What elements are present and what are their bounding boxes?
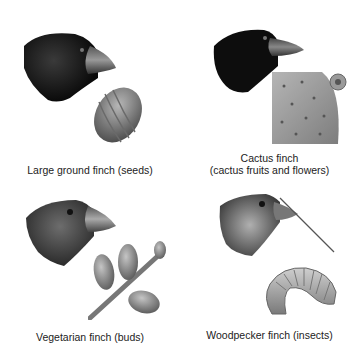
- caption-vegetarian-finch: Vegetarian finch (buds): [0, 331, 180, 343]
- caption-cactus-finch-line1: Cactus finch: [180, 152, 359, 164]
- seed-icon: [85, 82, 151, 148]
- cactus-pad-icon: [272, 68, 352, 144]
- caption-cactus-finch-line2: (cactus fruits and flowers): [180, 164, 359, 176]
- larva-icon: [262, 262, 342, 318]
- buds-icon: [88, 240, 170, 320]
- caption-large-ground-finch: Large ground finch (seeds): [0, 164, 180, 176]
- woodpecker-finch-head-icon: [218, 192, 338, 262]
- caption-woodpecker-finch: Woodpecker finch (insects): [180, 329, 359, 341]
- caption-cactus-finch: Cactus finch (cactus fruits and flowers): [180, 152, 359, 176]
